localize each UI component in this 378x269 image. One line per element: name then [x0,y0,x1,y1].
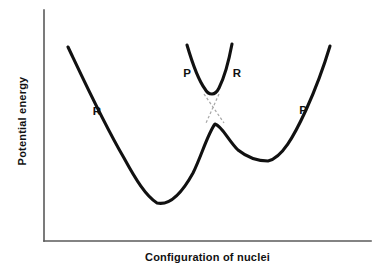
diabatic-crossing-line-2 [206,94,219,123]
curve-label-upper-right-R: R [233,67,242,79]
curve-label-lower-left-R: R [93,105,102,117]
curve-label-lower-right-P: P [299,104,307,116]
y-axis-title-wrap: Potential energy [0,0,44,241]
x-axis-title-wrap: Configuration of nuclei [44,246,371,268]
y-axis-title: Potential energy [16,76,28,165]
lower-adiabatic-curve [68,46,330,203]
x-axis-title: Configuration of nuclei [145,251,270,263]
plot-canvas: R P R P [0,0,378,269]
curve-label-upper-left-P: P [183,67,191,79]
diabatic-crossing-line-1 [204,94,224,123]
potential-energy-diagram: R P R P Potential energy Configuration o… [0,0,378,269]
upper-adiabatic-curve [187,44,232,94]
